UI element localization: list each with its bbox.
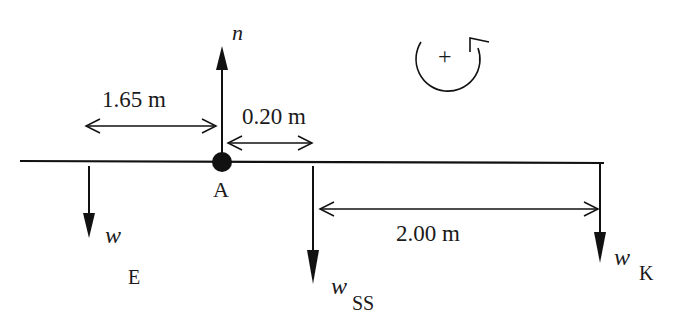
dimension-1-65-label: 1.65 m — [102, 87, 166, 112]
normal-force-label: n — [232, 20, 243, 45]
weight-ss-subscript: SS — [352, 292, 374, 314]
weight-e-subscript: E — [128, 266, 140, 288]
weight-k-arrow — [594, 163, 606, 263]
weight-ss-label: w — [331, 273, 347, 299]
dimension-0-20-label: 0.20 m — [242, 104, 306, 129]
weight-k-label: w — [614, 244, 630, 270]
weight-e-label: w — [105, 222, 121, 248]
pivot-a — [212, 152, 232, 172]
dimension-2-00 — [320, 202, 598, 216]
normal-force-arrow — [216, 46, 228, 160]
weight-e-arrow — [83, 166, 95, 238]
dimension-1-65 — [86, 119, 216, 133]
dimension-2-00-label: 2.00 m — [396, 221, 460, 246]
sign-convention-plus: + — [438, 43, 452, 69]
pivot-label: A — [213, 177, 229, 202]
ccw-rotation-icon — [416, 38, 489, 91]
beam — [20, 161, 604, 163]
free-body-diagram: n A w E w SS w K 1.65 m 0.20 m 2.00 m — [0, 0, 675, 327]
weight-k-subscript: K — [639, 262, 654, 284]
weight-ss-arrow — [307, 166, 319, 284]
dimension-0-20 — [228, 136, 312, 150]
